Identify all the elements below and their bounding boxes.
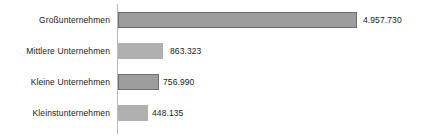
value-label: 863.323 bbox=[170, 46, 201, 57]
bar-kleine-unternehmen bbox=[118, 74, 159, 90]
chart-row: Kleinstunternehmen 448.135 bbox=[0, 98, 430, 128]
value-label: 756.990 bbox=[163, 77, 194, 88]
category-label: Mittlere Unternehmen bbox=[0, 46, 110, 57]
category-label: Kleine Unternehmen bbox=[0, 77, 110, 88]
chart-row: Mittlere Unternehmen 863.323 bbox=[0, 36, 430, 66]
value-label: 4.957.730 bbox=[363, 15, 402, 26]
bar-kleinstunternehmen bbox=[118, 105, 148, 121]
bar-mittlere-unternehmen bbox=[118, 43, 163, 59]
chart-row: Großunternehmen 4.957.730 bbox=[0, 5, 430, 35]
category-label: Großunternehmen bbox=[0, 15, 110, 26]
chart-row: Kleine Unternehmen 756.990 bbox=[0, 67, 430, 97]
bar-chart: Großunternehmen 4.957.730 Mittlere Unter… bbox=[0, 0, 430, 138]
category-label: Kleinstunternehmen bbox=[0, 108, 110, 119]
bar-grossunternehmen bbox=[118, 12, 357, 28]
value-label: 448.135 bbox=[152, 108, 183, 119]
